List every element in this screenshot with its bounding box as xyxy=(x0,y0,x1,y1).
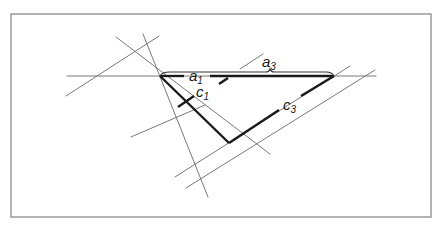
labels: a1 a3 c1 c3 xyxy=(189,53,297,115)
construction-line-3 xyxy=(143,34,208,197)
construction-line-1 xyxy=(66,36,159,96)
label-a3: a3 xyxy=(262,53,276,72)
geometric-construction-diagram: a1 a3 c1 c3 xyxy=(0,0,444,230)
construction-lines xyxy=(66,34,376,197)
tick-a1 xyxy=(219,78,228,84)
edge-c1 xyxy=(160,76,229,143)
edge-c3-upper xyxy=(301,76,334,96)
edge-c3-lower xyxy=(229,110,279,143)
triangle-edges xyxy=(160,76,334,143)
label-c3: c3 xyxy=(283,96,297,115)
diagram-frame xyxy=(11,14,431,217)
short-line-a3 xyxy=(240,54,263,69)
label-c1: c1 xyxy=(196,83,209,102)
